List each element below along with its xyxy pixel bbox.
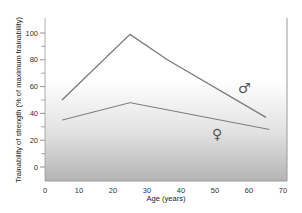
y-tick-label: 40 xyxy=(30,109,38,118)
y-axis-ticks: 020406080100 xyxy=(25,29,45,172)
y-axis-title: Trainability of strength (% of maximum t… xyxy=(14,16,23,183)
x-tick-label: 20 xyxy=(109,186,117,195)
female-symbol-icon: ♀ xyxy=(212,126,222,142)
x-tick-label: 0 xyxy=(43,186,47,195)
x-tick-label: 70 xyxy=(279,186,287,195)
x-tick-label: 10 xyxy=(75,186,83,195)
y-tick-label: 20 xyxy=(30,136,38,145)
plot-area xyxy=(45,18,287,181)
male-symbol-icon: ♂ xyxy=(238,80,251,96)
y-tick-label: 60 xyxy=(30,82,38,91)
x-axis-title: Age (years) xyxy=(147,194,186,203)
y-tick-label: 100 xyxy=(25,29,38,38)
y-tick-label: 80 xyxy=(30,55,38,64)
x-tick-label: 50 xyxy=(211,186,219,195)
trainability-chart: 020406080100 010203040506070 ♂ ♀ Age (ye… xyxy=(0,0,302,213)
y-tick-label: 0 xyxy=(34,163,38,172)
x-tick-label: 60 xyxy=(245,186,253,195)
